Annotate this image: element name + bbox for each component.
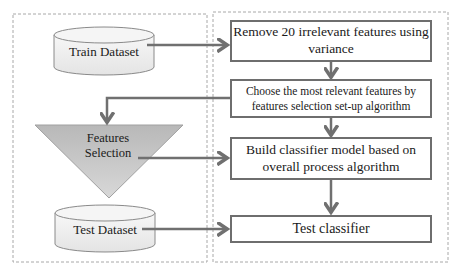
step-1-line1: Remove 20 irrelevant features using: [233, 24, 429, 41]
arrow-choose-to-selection: [107, 98, 230, 121]
step-choose-relevant-features: Choose the most relevant features by fea…: [230, 79, 432, 118]
step-2-line2: features selection set-up algorithm: [252, 99, 411, 113]
features-selection-label: Features Selection: [60, 128, 156, 164]
step-3-line1: Build classifier model based on: [246, 142, 416, 159]
train-dataset-label: Train Dataset: [54, 41, 154, 63]
step-remove-irrelevant-features: Remove 20 irrelevant features using vari…: [230, 20, 432, 62]
test-dataset-text: Test Dataset: [73, 222, 137, 238]
features-selection-line2: Selection: [85, 146, 132, 161]
step-3-line2: overall process algorithm: [262, 159, 399, 176]
test-dataset-label: Test Dataset: [55, 219, 155, 241]
step-build-classifier: Build classifier model based on overall …: [230, 137, 432, 180]
step-test-classifier: Test classifier: [230, 215, 432, 243]
train-dataset-text: Train Dataset: [69, 44, 139, 60]
features-selection-line1: Features: [87, 131, 129, 146]
step-4-line1: Test classifier: [292, 220, 369, 238]
step-2-line1: Choose the most relevant features by: [246, 84, 416, 98]
step-1-line2: variance: [308, 41, 354, 58]
